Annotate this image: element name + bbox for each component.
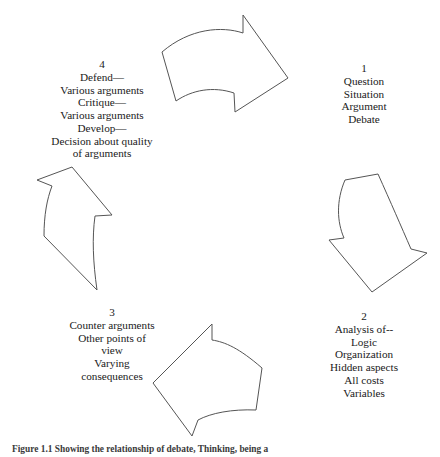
stage-1-line-3: Argument (300, 100, 428, 113)
stage-3-line-5: consequences (38, 370, 186, 383)
stage-1-text: 1 Question Situation Argument Debate (300, 62, 428, 126)
stage-2-line-4: Hidden aspects (300, 361, 428, 374)
stage-2-line-2: Logic (300, 336, 428, 349)
arrow-right-down (329, 174, 427, 292)
stage-3-number: 3 (38, 306, 186, 319)
stage-2-line-1: Analysis of-- (300, 323, 428, 336)
stage-2-line-3: Organization (300, 348, 428, 361)
stage-3-line-3: view (38, 344, 186, 357)
stage-4-line-3: Critique— (12, 96, 192, 109)
stage-3-line-4: Varying (38, 357, 186, 370)
stage-3-line-2: Other points of (38, 332, 186, 345)
stage-2-number: 2 (300, 310, 428, 323)
stage-1-line-4: Debate (300, 113, 428, 126)
stage-4-line-7: of arguments (12, 147, 192, 160)
stage-4-line-4: Various arguments (12, 109, 192, 122)
stage-1-line-2: Situation (300, 88, 428, 101)
stage-4-line-1: Defend— (12, 71, 192, 84)
stage-4-line-2: Various arguments (12, 84, 192, 97)
stage-2-text: 2 Analysis of-- Logic Organization Hidde… (300, 310, 428, 399)
stage-1-number: 1 (300, 62, 428, 75)
stage-3-text: 3 Counter arguments Other points of view… (38, 306, 186, 383)
stage-4-number: 4 (12, 58, 192, 71)
stage-4-line-5: Develop— (12, 122, 192, 135)
stage-4-text: 4 Defend— Various arguments Critique— Va… (12, 58, 192, 160)
stage-3-line-1: Counter arguments (38, 319, 186, 332)
stage-1-line-1: Question (300, 75, 428, 88)
stage-2-line-6: Variables (300, 387, 428, 400)
arrow-left-up (37, 167, 112, 290)
stage-4-line-6: Decision about quality (12, 135, 192, 148)
figure-container: 1 Question Situation Argument Debate 2 A… (0, 0, 440, 457)
figure-caption: Figure 1.1 Showing the relationship of d… (12, 444, 432, 457)
stage-2-line-5: All costs (300, 374, 428, 387)
